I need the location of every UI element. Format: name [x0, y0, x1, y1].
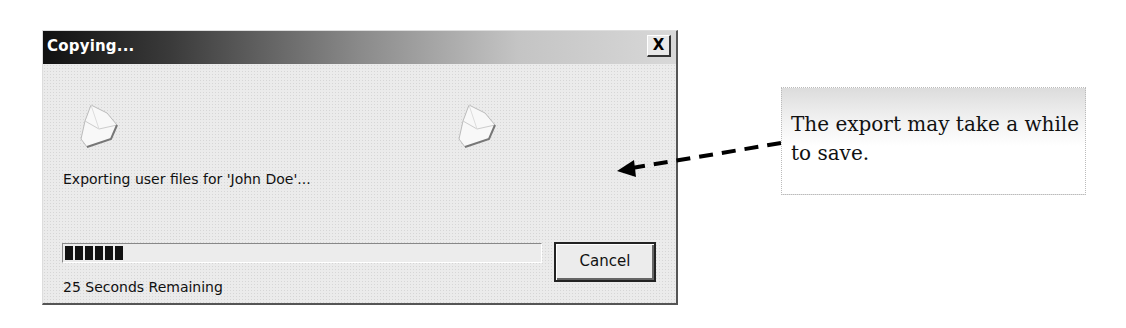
- close-icon: X: [653, 36, 665, 54]
- cancel-button[interactable]: Cancel: [554, 242, 656, 282]
- file-copy-icon: [455, 99, 503, 155]
- callout-text: The export may take a while to save.: [791, 110, 1081, 168]
- close-button[interactable]: X: [647, 35, 671, 57]
- progress-block: [105, 246, 113, 260]
- progress-bar: [62, 243, 542, 263]
- progress-block: [85, 246, 93, 260]
- progress-fill: [65, 246, 123, 260]
- progress-block: [95, 246, 103, 260]
- time-remaining: 25 Seconds Remaining: [63, 279, 223, 295]
- status-message: Exporting user files for 'John Doe'...: [63, 171, 311, 187]
- annotation-callout: The export may take a while to save.: [781, 87, 1086, 195]
- copying-dialog: Copying... X Exporting user files for 'J…: [42, 30, 678, 305]
- progress-block: [65, 246, 73, 260]
- progress-block: [115, 246, 123, 260]
- progress-block: [75, 246, 83, 260]
- file-copy-icon: [77, 99, 125, 155]
- title-bar[interactable]: Copying... X: [43, 31, 676, 64]
- dialog-title: Copying...: [47, 37, 134, 55]
